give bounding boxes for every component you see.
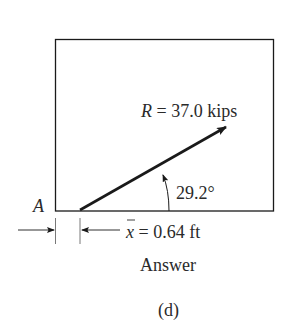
point-a-label: A bbox=[32, 196, 45, 216]
subfigure-label: (d) bbox=[158, 300, 179, 321]
body-rectangle bbox=[56, 40, 274, 212]
force-diagram: R = 37.0 kips 29.2° A x = 0.64 ft Answer… bbox=[0, 0, 295, 332]
answer-caption: Answer bbox=[140, 255, 196, 275]
resultant-label: R = 37.0 kips bbox=[140, 101, 237, 121]
xbar-label: x = 0.64 ft bbox=[125, 222, 200, 242]
angle-arc-arrow bbox=[163, 175, 169, 211]
angle-label: 29.2° bbox=[176, 183, 215, 203]
